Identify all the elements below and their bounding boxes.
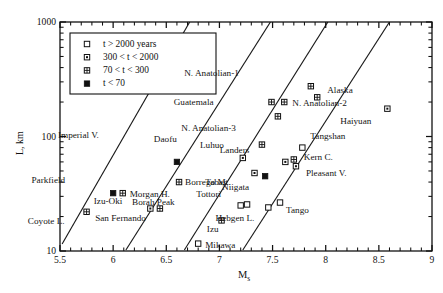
data-point-guatemala[interactable] [269,99,274,104]
point-label-borah-peak: Borah Peak [132,198,175,207]
data-point-hebgen-l-body [266,205,271,210]
point-label-mikawa: Mikawa [205,241,235,250]
y-tick-label-100: 100 [0,131,56,142]
data-point-luhuo[interactable] [259,142,264,147]
data-point-tango[interactable] [277,200,282,205]
data-point-haiyuan[interactable] [385,106,390,111]
legend-marker-1[interactable] [84,41,89,46]
data-point-daofu[interactable] [240,155,245,160]
point-label-tango: Tango [286,206,309,215]
data-point-izu-oki-dot [149,208,151,210]
data-point-niigata-body [262,174,267,179]
data-point-tangshan[interactable] [300,145,305,150]
legend-marker-2[interactable] [84,55,89,60]
point-label-izu-oki: Izu-Oki [94,197,123,206]
data-point-haiyuan-dot [386,108,388,110]
point-label-imperial-v: Imperial V. [58,131,99,140]
x-tick-label-7: 7 [217,254,222,265]
legend-marker-1-body [84,41,89,46]
data-point-imperial-v-body [174,159,179,164]
legend-marker-4-body [84,81,89,86]
point-label-niigata: Niigata [222,183,249,192]
data-point-borrego-mt[interactable] [176,179,181,184]
x-tick-label-8.5: 8.5 [373,254,385,265]
point-label-san-fernando: San Fernando [95,214,146,223]
data-point-kern-c[interactable] [291,157,296,162]
data-point-borah-peak[interactable] [238,203,243,208]
legend-label-3: 70 < t < 300 [103,65,149,75]
data-point-tango-body [277,200,282,205]
data-point-n-anatolian-1[interactable] [308,83,313,88]
point-label-alaska: Alaska [327,86,353,95]
data-point-niigata[interactable] [262,174,267,179]
y-tick-label-1000: 1000 [0,16,56,27]
point-label-parkfield: Parkfield [31,176,65,185]
point-label-izu: Izu [207,225,219,234]
y-tick-label-10: 10 [0,245,56,256]
data-point-tabas[interactable] [252,170,257,175]
point-label-n-anatolian-1: N. Anatolian-1 [184,69,239,78]
data-point-imperial-v[interactable] [174,159,179,164]
point-label-guatemala: Guatemala [174,98,214,107]
data-point-n-anatolian-3[interactable] [275,114,280,119]
point-label-kern-c: Kern C. [304,153,333,162]
legend-label-4: t < 70 [103,78,125,88]
legend-label-1: t > 2000 years [103,39,156,49]
legend-label-2: 300 < t < 2000 [103,52,158,62]
data-point-n-anatolian-2[interactable] [282,99,287,104]
legend-marker-2-dot [86,56,88,58]
point-label-daofu: Daofu [154,135,177,144]
data-point-mikawa-body [195,241,200,246]
data-point-pleasant-v-dot [295,165,297,167]
data-point-hebgen-l[interactable] [266,205,271,210]
data-point-coyote-l[interactable] [84,209,89,214]
data-point-mikawa[interactable] [195,241,200,246]
data-point-landers-dot [284,161,286,163]
point-label-landers: Landers [220,146,250,155]
data-point-tottori-body [244,202,249,207]
earthquake-rupture-length-chart: Coyote L.ParkfieldMorgan H.Izu-OkiSan Fe… [0,0,443,293]
y-axis-title: L, km [14,131,25,155]
data-point-pleasant-v[interactable] [293,164,298,169]
x-tick-label-7.5: 7.5 [267,254,279,265]
point-label-hebgen-l: Hebgen L. [216,214,255,223]
data-point-borah-peak-body [238,203,243,208]
data-point-tottori[interactable] [244,202,249,207]
legend-marker-3[interactable] [84,68,89,73]
x-tick-label-6: 6 [111,254,116,265]
point-label-haiyuan: Haiyuan [340,117,371,126]
data-point-tabas-dot [254,172,256,174]
point-label-tangshan: Tangshan [310,132,345,141]
data-point-tangshan-body [300,145,305,150]
point-label-n-anatolian-3: N. Anatolian-3 [181,124,236,133]
point-label-tottori: Tottori [196,190,221,199]
point-label-n-anatolian-2: N. Anatolian-2 [292,99,347,108]
x-tick-label-9: 9 [430,254,435,265]
x-tick-label-8: 8 [323,254,328,265]
data-point-daofu-dot [242,157,244,159]
point-label-pleasant-v: Pleasant V. [306,169,347,178]
point-label-coyote-l: Coyote L. [28,217,65,226]
data-point-landers[interactable] [283,159,288,164]
x-tick-label-6.5: 6.5 [160,254,172,265]
legend-marker-4[interactable] [84,81,89,86]
x-axis-title: Ms [238,269,250,283]
